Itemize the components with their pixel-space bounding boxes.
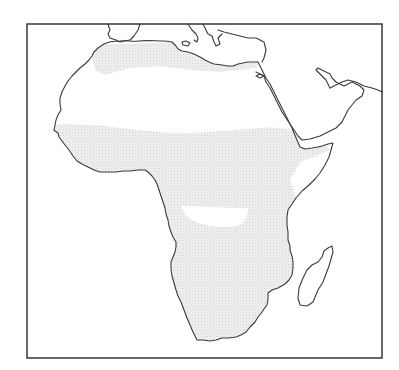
italy-coastline [188, 24, 198, 42]
africa-map [0, 0, 399, 370]
madagascar-coastline [298, 246, 333, 306]
balkans-coastline [203, 24, 222, 46]
iberia-coastline [108, 24, 140, 42]
shading-layer [50, 42, 330, 345]
north-african-coastal-band [90, 42, 260, 75]
turkey-coastline [218, 30, 266, 62]
persian-gulf-coastline [330, 80, 382, 92]
sicily-coastline [182, 41, 190, 46]
